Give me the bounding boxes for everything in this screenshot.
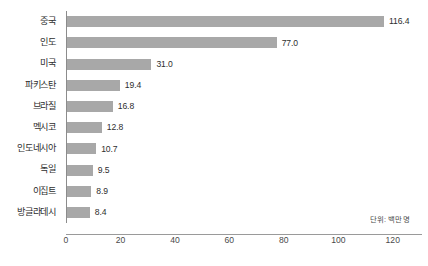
bar-value-label: 8.4 [95,208,107,217]
bar [67,143,96,154]
bar-row: 31.0 [67,53,420,74]
bar-row: 10.7 [67,138,420,159]
bar-row: 8.4 [67,202,420,223]
category-label: 방글라데시 [0,202,62,223]
bar-value-label: 8.9 [96,187,108,196]
bar [67,122,102,133]
bar-row: 9.5 [67,159,420,180]
category-label: 이집트 [0,181,62,202]
category-label: 멕시코 [0,117,62,138]
bar-value-label: 16.8 [118,102,134,111]
bar [67,207,90,218]
bar [67,16,384,27]
bar-row: 116.4 [67,11,420,32]
unit-annotation: 단위: 백만 명 [370,216,410,223]
bar [67,165,93,176]
category-label: 독일 [0,159,62,180]
bar [67,101,113,112]
x-axis-tick-label: 40 [170,236,180,245]
bar [67,186,91,197]
category-axis: 중국 인도 미국 파키스탄 브라질 멕시코 인도네시아 독일 이집트 방글라데시 [0,11,62,223]
bar-value-label: 116.4 [389,17,409,26]
bar-value-label: 10.7 [101,145,117,154]
plot-area: 116.4 77.0 31.0 19.4 16.8 12.8 [66,11,420,223]
category-label: 파키스탄 [0,75,62,96]
bar-value-label: 31.0 [156,60,172,69]
bar-row: 19.4 [67,75,420,96]
category-label: 인도 [0,32,62,53]
bar-row: 8.9 [67,181,420,202]
bar-value-label: 9.5 [98,166,110,175]
bar [67,37,277,48]
category-label: 중국 [0,11,62,32]
x-axis-tick-label: 80 [279,236,289,245]
x-axis-tick-label: 0 [64,236,69,245]
bar [67,59,151,70]
x-axis-tick-label: 60 [225,236,235,245]
bar-row: 77.0 [67,32,420,53]
category-label: 미국 [0,53,62,74]
x-axis-tick-label: 100 [331,236,345,245]
x-axis-tick-label: 120 [386,236,400,245]
bar-row: 16.8 [67,96,420,117]
x-axis-tick-label: 20 [116,236,126,245]
bar-series: 116.4 77.0 31.0 19.4 16.8 12.8 [67,11,420,223]
x-axis: 020406080100120 [66,236,420,250]
bar-value-label: 19.4 [125,81,141,90]
horizontal-bar-chart: 중국 인도 미국 파키스탄 브라질 멕시코 인도네시아 독일 이집트 방글라데시… [0,0,428,266]
bar [67,80,120,91]
category-label: 브라질 [0,96,62,117]
bar-row: 12.8 [67,117,420,138]
bar-value-label: 77.0 [282,39,298,48]
bar-value-label: 12.8 [107,123,123,132]
category-label: 인도네시아 [0,138,62,159]
